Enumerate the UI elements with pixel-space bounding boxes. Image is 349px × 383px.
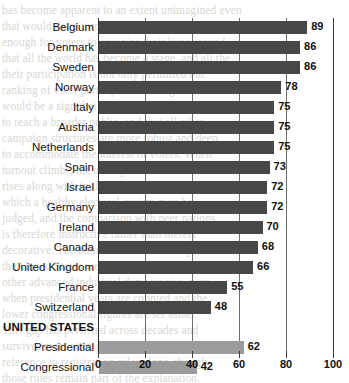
category-axis-labels: BelgiumDenmarkSwedenNorwayItalyAustriaNe… (0, 18, 94, 351)
x-tick-20 (145, 351, 146, 358)
x-tick-label-60: 60 (233, 358, 245, 370)
x-tick-label-40: 40 (186, 358, 198, 370)
bar (99, 161, 270, 174)
x-tick-label-100: 100 (324, 358, 342, 370)
bar-value-label: 86 (304, 40, 316, 53)
bar-row: 48 (98, 298, 333, 318)
x-tick-0 (98, 351, 99, 358)
category-label: Germany (0, 198, 94, 218)
category-heading-label: UNITED STATES (0, 318, 94, 338)
x-tick-60 (239, 351, 240, 358)
bar (99, 21, 307, 34)
bar-row: 75 (98, 98, 333, 118)
x-tick-100 (333, 351, 334, 358)
bar-value-label: 68 (262, 240, 274, 253)
bar-value-label: 86 (304, 60, 316, 73)
gridline-100 (333, 18, 334, 351)
category-label: United Kingdom (0, 258, 94, 278)
bar-value-label: 72 (271, 180, 283, 193)
x-tick-label-0: 0 (95, 358, 101, 370)
x-tick-label-80: 80 (280, 358, 292, 370)
bar-chart-figure: BelgiumDenmarkSwedenNorwayItalyAustriaNe… (0, 0, 349, 383)
bar-row: 86 (98, 38, 333, 58)
bar-value-label: 78 (285, 80, 297, 93)
category-label: Presidential (0, 338, 94, 358)
bar-value-label: 66 (257, 260, 269, 273)
category-label: Denmark (0, 38, 94, 58)
category-label: France (0, 278, 94, 298)
bar-value-label: 48 (215, 300, 227, 313)
category-label: Ireland (0, 218, 94, 238)
bar-row: 86 (98, 58, 333, 78)
category-label: Belgium (0, 18, 94, 38)
bar-row: 72 (98, 178, 333, 198)
category-label: Austria (0, 118, 94, 138)
bar-value-label: 70 (267, 220, 279, 233)
category-label: Canada (0, 238, 94, 258)
bar-row: 73 (98, 158, 333, 178)
bar-row: 68 (98, 238, 333, 258)
bar-value-label: 75 (278, 100, 290, 113)
category-label: Italy (0, 98, 94, 118)
bar-row: 78 (98, 78, 333, 98)
bar-row (98, 318, 333, 338)
bar-row: 55 (98, 278, 333, 298)
bar-rows: 8986867875757573727270686655486242 (98, 18, 333, 351)
category-label: Sweden (0, 58, 94, 78)
category-label: Norway (0, 78, 94, 98)
bar-row: 70 (98, 218, 333, 238)
bar (99, 121, 274, 134)
category-label: Israel (0, 178, 94, 198)
bar-value-label: 55 (231, 280, 243, 293)
bar (99, 181, 267, 194)
bar-row: 66 (98, 258, 333, 278)
category-label: Spain (0, 158, 94, 178)
bar (99, 141, 274, 154)
bar (99, 101, 274, 114)
bar (99, 221, 263, 234)
bar (99, 61, 300, 74)
x-tick-label-20: 20 (139, 358, 151, 370)
bar-value-label: 73 (274, 160, 286, 173)
bar-value-label: 75 (278, 120, 290, 133)
category-label: Congressional (0, 358, 94, 378)
bar (99, 281, 227, 294)
category-label: Switzerland (0, 298, 94, 318)
x-tick-80 (286, 351, 287, 358)
bar (99, 41, 300, 54)
bar-value-label: 75 (278, 140, 290, 153)
category-label: Netherlands (0, 138, 94, 158)
bar-row: 89 (98, 18, 333, 38)
bar-value-label: 72 (271, 200, 283, 213)
bar (99, 241, 258, 254)
bar-value-label: 89 (311, 20, 323, 33)
bar-row: 75 (98, 118, 333, 138)
bar (99, 301, 211, 314)
x-tick-40 (192, 351, 193, 358)
bar (99, 81, 281, 94)
bar-row: 75 (98, 138, 333, 158)
bar (99, 201, 267, 214)
plot-area: 8986867875757573727270686655486242 (98, 18, 333, 351)
bar (99, 261, 253, 274)
x-axis: 020406080100 (98, 351, 334, 373)
bar-row: 72 (98, 198, 333, 218)
